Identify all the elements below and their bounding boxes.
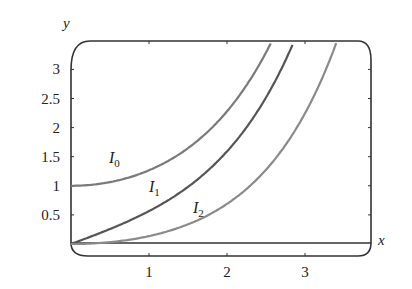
x-axis-label: x [377, 232, 385, 248]
curve-label-I0: I0 [108, 149, 120, 169]
y-tick-label: 3 [53, 61, 61, 77]
x-tick-label: 2 [223, 264, 231, 280]
y-tick-label: 1 [53, 178, 61, 194]
curve-label-I1: I1 [148, 178, 160, 198]
plot-frame [71, 41, 371, 256]
curve-I0 [71, 44, 271, 186]
curve-label-I2: I2 [192, 199, 204, 219]
tick-marks [71, 41, 371, 256]
y-tick-label: 2 [53, 120, 61, 136]
curve-I1 [71, 45, 293, 244]
y-axis-label: y [61, 15, 70, 31]
x-tick-label: 3 [301, 264, 309, 280]
x-tick-label: 1 [145, 264, 153, 280]
chart: 1230.511.522.53 y x I0I1I2 [0, 0, 412, 289]
y-tick-label: 1.5 [41, 149, 60, 165]
y-tick-label: 2.5 [41, 91, 60, 107]
y-tick-label: 0.5 [41, 207, 60, 223]
